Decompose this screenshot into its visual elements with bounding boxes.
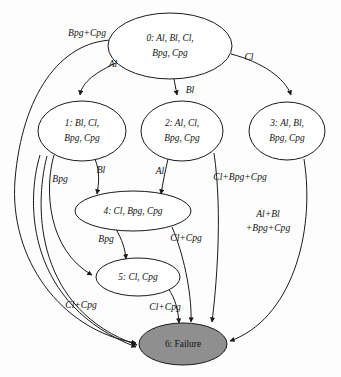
edge-0-to-2: [174, 79, 177, 95]
state-2-label-line1: 2: Al, Cl,: [165, 118, 199, 128]
edge-label-4-to-5: Bpg: [98, 233, 114, 244]
edge-4-to-5: [116, 229, 126, 259]
edge-0-to-3: [231, 54, 291, 95]
state-diagram: 0: Al, Bl, Cl, Bpg, Cpg 1: Bl, Cl, Bpg, …: [0, 0, 341, 377]
state-node-0[interactable]: 0: Al, Bl, Cl, Bpg, Cpg: [108, 13, 232, 79]
edge-1-to-6: [33, 155, 136, 347]
state-4-label: 4: Cl, Bpg, Cpg: [103, 206, 162, 216]
state-5-label: 5: Cl, Cpg: [118, 272, 158, 282]
state-1-label-line2: Bpg, Cpg: [64, 133, 100, 143]
state-node-5[interactable]: 5: Cl, Cpg: [96, 258, 180, 296]
state-node-3[interactable]: 3: Al, Bl, Bpg, Cpg: [249, 102, 325, 160]
edge-label-1-to-6: Cl+Cpg: [65, 299, 97, 310]
diagram-canvas: 0: Al, Bl, Cl, Bpg, Cpg 1: Bl, Cl, Bpg, …: [0, 0, 341, 377]
state-node-1[interactable]: 1: Bl, Cl, Bpg, Cpg: [38, 101, 126, 161]
state-0-label-line1: 0: Al, Bl, Cl,: [146, 33, 193, 43]
nodes-layer: 0: Al, Bl, Cl, Bpg, Cpg 1: Bl, Cl, Bpg, …: [38, 13, 325, 365]
edge-label-3-to-6-line2: +Bpg+Cpg: [246, 222, 291, 233]
state-3-shape[interactable]: [249, 102, 325, 160]
state-3-label-line2: Bpg, Cpg: [269, 133, 305, 143]
state-2-shape[interactable]: [141, 101, 223, 161]
edge-label-4-to-6: Cl+Cpg: [170, 232, 202, 243]
state-0-shape[interactable]: [108, 13, 232, 79]
edge-3-to-6: [230, 159, 307, 341]
state-2-label-line2: Bpg, Cpg: [164, 133, 200, 143]
edge-label-1-to-4: Bl: [97, 164, 106, 175]
state-3-label-line1: 3: Al, Bl,: [269, 118, 304, 128]
edge-label-0-to-1: Al: [108, 58, 118, 69]
edge-1-to-6-alt: [41, 156, 137, 345]
state-node-6-failure[interactable]: 6: Failure: [139, 323, 227, 365]
state-1-label-line1: 1: Bl, Cl,: [65, 118, 99, 128]
edge-label-1-to-5: Bpg: [52, 173, 68, 184]
state-node-4[interactable]: 4: Cl, Bpg, Cpg: [75, 191, 191, 231]
state-6-label: 6: Failure: [165, 339, 201, 349]
state-0-label-line2: Bpg, Cpg: [152, 48, 188, 58]
edge-label-0-to-3: Cl: [244, 51, 253, 62]
edge-label-2-to-6: Cl+Bpg+Cpg: [213, 171, 267, 182]
edge-label-5-to-6: Cl+Cpg: [149, 301, 181, 312]
edge-label-2-to-4: Al: [155, 165, 165, 176]
edge-label-3-to-6-line1: Al+Bl: [255, 208, 280, 219]
state-node-2[interactable]: 2: Al, Cl, Bpg, Cpg: [141, 101, 223, 161]
edge-label-0-to-6: Bpg+Cpg: [68, 27, 106, 38]
state-1-shape[interactable]: [38, 101, 126, 161]
edge-label-0-to-2: Bl: [186, 84, 195, 95]
